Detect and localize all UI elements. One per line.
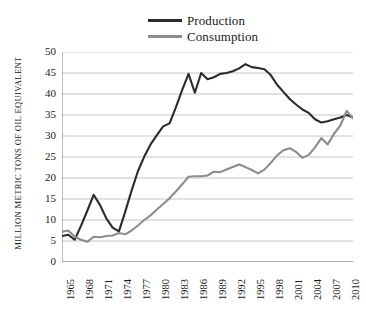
y-tick-label: 15: [30, 193, 56, 204]
plot-area: [62, 52, 353, 262]
y-tick-label: 0: [30, 256, 56, 267]
x-tick-label: 1971: [104, 279, 115, 300]
chart-container: Production Consumption MILLION METRIC TO…: [0, 0, 366, 318]
y-tick-label: 50: [30, 46, 56, 57]
chart-svg: [62, 52, 353, 262]
y-tick-label: 35: [30, 109, 56, 120]
y-tick-label: 45: [30, 67, 56, 78]
gridlines: [62, 52, 353, 262]
legend-swatch-production: [148, 19, 182, 22]
x-tick-label: 1992: [237, 279, 248, 300]
y-tick-label: 25: [30, 151, 56, 162]
legend-label-consumption: Consumption: [187, 30, 258, 43]
x-tick-label: 1974: [123, 279, 134, 300]
legend-item-consumption: Consumption: [148, 28, 258, 44]
x-tick-label: 1968: [85, 279, 96, 300]
legend-label-production: Production: [187, 14, 245, 27]
y-axis-title: MILLION METRIC TONS OF OIL EQUIVALENT: [13, 43, 23, 263]
x-tick-label: 1989: [218, 279, 229, 300]
y-tick-label: 40: [30, 88, 56, 99]
x-tick-label: 1965: [66, 279, 77, 300]
x-tick-label: 1983: [180, 279, 191, 300]
y-tick-label: 30: [30, 130, 56, 141]
x-tick-label: 2004: [313, 279, 324, 300]
legend-item-production: Production: [148, 12, 258, 28]
x-tick-label: 1977: [142, 279, 153, 300]
x-axis-tick-labels: 1965196819711974197719801983198619891992…: [62, 268, 353, 318]
y-axis-tick-labels: 50454035302520151050: [30, 0, 56, 318]
x-tick-label: 1998: [275, 279, 286, 300]
y-tick-label: 20: [30, 172, 56, 183]
x-tick-label: 1995: [256, 279, 267, 300]
x-tick-label: 1986: [199, 279, 210, 300]
x-tick-label: 2007: [332, 279, 343, 300]
x-tick-label: 1980: [161, 279, 172, 300]
series-line-production: [62, 64, 353, 240]
series-line-consumption: [62, 111, 353, 242]
data-series: [62, 64, 353, 242]
legend-swatch-consumption: [148, 35, 182, 38]
y-tick-label: 5: [30, 235, 56, 246]
chart-legend: Production Consumption: [148, 12, 258, 44]
x-tick-label: 2001: [294, 279, 305, 300]
y-tick-label: 10: [30, 214, 56, 225]
x-tick-label: 2010: [351, 279, 362, 300]
